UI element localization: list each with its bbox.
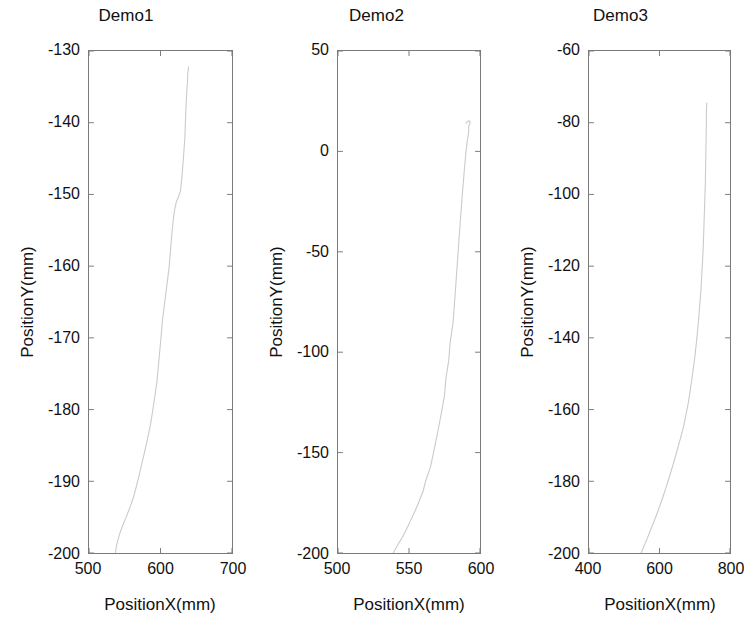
x-tick-label: 600: [646, 560, 673, 578]
ylabel-demo3: PositionY(mm): [518, 246, 538, 357]
subplot-demo3: Demo3 -200-180-160-140-120-100-80-60 400…: [495, 0, 740, 625]
subplot-demo1: Demo1 -200-190-180-170-160-150-140-130 5…: [0, 0, 250, 625]
y-tick-label: 50: [250, 41, 329, 59]
y-tick-label: -100: [250, 343, 329, 361]
y-tick-label: -150: [0, 185, 80, 203]
x-tick-label: 600: [147, 560, 174, 578]
y-tick-label: -130: [0, 41, 80, 59]
plot-svg-demo3: [589, 51, 730, 553]
x-tick-label: 550: [396, 560, 423, 578]
y-tick-label: -180: [495, 473, 580, 491]
ticks-demo1: [89, 51, 232, 553]
y-tick-label: -190: [0, 473, 80, 491]
y-tick-label: -50: [250, 243, 329, 261]
xlabel-demo3: PositionX(mm): [604, 595, 715, 615]
plot-svg-demo2: [338, 51, 480, 553]
y-tick-label: -180: [0, 401, 80, 419]
x-tick-label: 600: [468, 560, 495, 578]
plot-area-demo1: [88, 50, 233, 554]
y-tick-label: 0: [250, 142, 329, 160]
y-tick-label: -200: [250, 545, 329, 563]
y-tick-label: -60: [495, 41, 580, 59]
data-line-demo3: [641, 103, 707, 553]
ticks-demo3: [589, 51, 730, 553]
x-tick-label: 500: [324, 560, 351, 578]
subplot-demo2: Demo2 -200-150-100-50050 500550600 Posit…: [250, 0, 495, 625]
subplot-title-demo2: Demo2: [268, 6, 485, 26]
y-tick-label: -140: [0, 113, 80, 131]
y-tick-label: -150: [250, 444, 329, 462]
data-line-demo2: [393, 121, 470, 553]
xlabel-demo2: PositionX(mm): [353, 595, 464, 615]
plot-area-demo3: [588, 50, 731, 554]
y-tick-label: -160: [0, 257, 80, 275]
y-tick-label: -170: [0, 329, 80, 347]
x-tick-label: 400: [575, 560, 602, 578]
y-tick-label: -160: [495, 401, 580, 419]
y-tick-label: -80: [495, 113, 580, 131]
y-tick-label: -100: [495, 185, 580, 203]
x-tick-label: 800: [718, 560, 744, 578]
ylabel-demo2: PositionY(mm): [267, 246, 287, 357]
xlabel-demo1: PositionX(mm): [104, 595, 215, 615]
x-tick-label: 700: [220, 560, 247, 578]
ticks-demo2: [338, 51, 480, 553]
plot-svg-demo1: [89, 51, 232, 553]
y-tick-label: -200: [0, 545, 80, 563]
subplot-title-demo3: Demo3: [515, 6, 726, 26]
y-tick-label: -200: [495, 545, 580, 563]
x-tick-label: 500: [75, 560, 102, 578]
subplot-title-demo1: Demo1: [20, 6, 232, 26]
plot-area-demo2: [337, 50, 481, 554]
ylabel-demo1: PositionY(mm): [18, 246, 38, 357]
data-line-demo1: [115, 67, 188, 553]
